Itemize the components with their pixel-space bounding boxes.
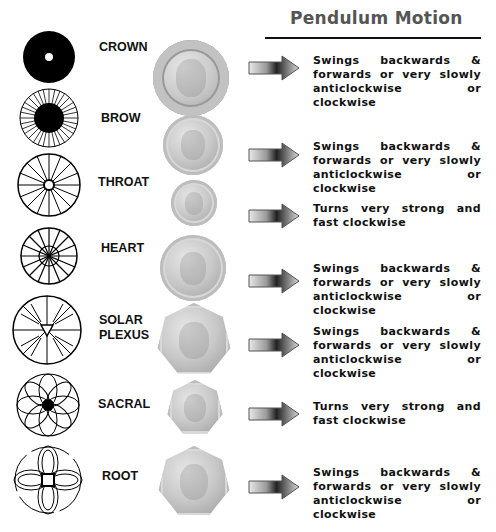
fifty-pence-britannia-coin — [158, 446, 230, 518]
arrow-icon — [248, 203, 300, 229]
ten-pence-coin — [160, 235, 226, 301]
arrow-icon — [248, 268, 300, 294]
page-title: Pendulum Motion — [290, 8, 463, 28]
motion-description: Swings backwards & forwards or very slow… — [313, 325, 481, 381]
two-pound-coin — [153, 40, 229, 116]
motion-description: Swings backwards & forwards or very slow… — [313, 140, 481, 196]
arrow-icon — [248, 142, 300, 168]
solid-ring-icon — [22, 30, 76, 84]
chakra-label-solar-plexus: SOLAR PLEXUS — [99, 313, 159, 343]
chakra-label-heart: HEART — [101, 241, 144, 256]
motion-description: Swings backwards & forwards or very slow… — [313, 262, 481, 318]
radial-lines-icon — [19, 88, 79, 148]
fifty-pence-coin — [157, 303, 231, 377]
one-pound-coin — [163, 115, 223, 175]
chakra-label-brow: BROW — [101, 111, 141, 126]
five-pence-coin — [171, 180, 217, 226]
chakra-label-throat: THROAT — [98, 175, 149, 190]
arrow-icon — [248, 55, 300, 81]
title-underline — [265, 37, 481, 39]
triangle-rays-icon — [11, 294, 83, 366]
arrow-icon — [248, 474, 300, 500]
motion-description: Turns very strong and fast clockwise — [313, 202, 481, 230]
arrow-icon — [248, 332, 300, 358]
twenty-pence-coin — [167, 380, 223, 436]
motion-description: Swings backwards & forwards or very slow… — [313, 54, 481, 110]
wheel-of-spokes-icon — [19, 226, 79, 286]
motion-description: Turns very strong and fast clockwise — [313, 400, 481, 428]
flower-petals-icon — [15, 372, 81, 438]
chakra-label-sacral: SACRAL — [98, 397, 150, 412]
arrow-icon — [248, 401, 300, 427]
spoked-wheel-icon — [16, 152, 82, 218]
motion-description: Swings backwards & forwards or very slow… — [313, 466, 481, 522]
four-petal-square-icon — [12, 444, 84, 516]
chakra-label-crown: CROWN — [99, 40, 148, 55]
chakra-label-root: ROOT — [102, 469, 138, 484]
